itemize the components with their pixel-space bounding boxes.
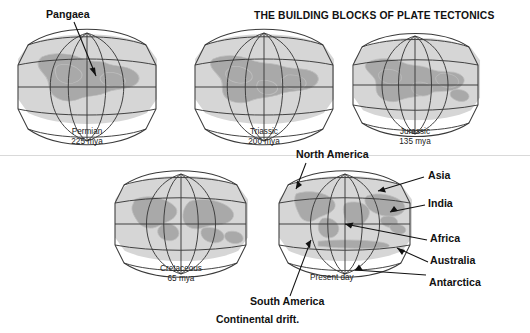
globe-label-triassic-era: Triassic (234, 127, 294, 136)
annotation-pangaea: Pangaea (46, 9, 90, 21)
globe-label-permian-era: Permian (57, 127, 117, 136)
globe-cretaceous (113, 171, 250, 278)
globe-jurassic (352, 33, 482, 137)
globe-label-jurassic-era: Jurassic (385, 127, 445, 136)
globe-label-cretaceous-era: Cretaceous (151, 264, 211, 273)
annotation-australia: Australia (430, 255, 475, 267)
annotation-africa: Africa (430, 233, 460, 245)
figure-caption: Continental drift. (216, 314, 299, 326)
globe-label-triassic-age: 200 mya (234, 137, 294, 146)
figure-canvas: THE BUILDING BLOCKS OF PLATE TECTONICS P… (0, 0, 530, 333)
annotation-south-america: South America (250, 296, 324, 308)
globe-label-cretaceous-age: 65 mya (151, 274, 211, 283)
annotation-asia: Asia (428, 170, 450, 182)
globe-label-present-day: Present day (310, 273, 354, 282)
globe-label-permian-age: 225 mya (57, 137, 117, 146)
annotation-north-america: North America (296, 149, 369, 161)
globe-label-jurassic-age: 135 mya (385, 137, 445, 146)
annotation-india: India (428, 198, 453, 210)
annotation-antarctica: Antarctica (429, 277, 481, 289)
page-title: THE BUILDING BLOCKS OF PLATE TECTONICS (254, 10, 494, 22)
